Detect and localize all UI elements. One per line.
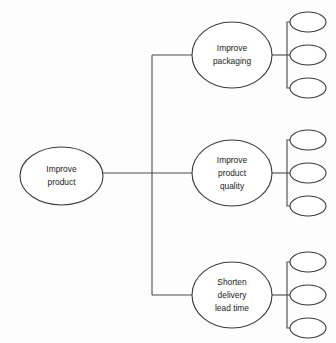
branch-quality-label-line-3: quality [220, 181, 245, 191]
tree-diagram-canvas: Improve product Improve packaging Improv… [0, 0, 336, 343]
branch-packaging-ellipse-shape [192, 22, 272, 88]
branch-quality-label-line-2: product [218, 168, 247, 178]
root-ellipse-shape [20, 147, 103, 205]
node-branch-shorten-delivery-lead-time[interactable]: Shorten delivery lead time [192, 262, 272, 328]
leaf-node-quality-3[interactable] [290, 196, 326, 216]
branch-packaging-label-line-2: packaging [213, 56, 252, 66]
leaf-node-packaging-2[interactable] [290, 45, 326, 65]
branch-delivery-label-line-3: lead time [215, 303, 249, 313]
leaf-node-quality-2[interactable] [290, 163, 326, 183]
leaf-node-quality-1[interactable] [290, 130, 326, 150]
branch-delivery-label-line-1: Shorten [217, 277, 247, 287]
tree-diagram-svg: Improve product Improve packaging Improv… [0, 0, 336, 343]
leaf-node-delivery-1[interactable] [290, 252, 326, 272]
leaf-group-packaging [290, 12, 326, 98]
node-branch-improve-product-quality[interactable]: Improve product quality [192, 140, 272, 206]
leaf-node-delivery-3[interactable] [290, 318, 326, 338]
leaf-group-delivery [290, 252, 326, 338]
branch-packaging-label-line-1: Improve [217, 43, 248, 53]
leaf-node-packaging-1[interactable] [290, 12, 326, 32]
node-root-improve-product[interactable]: Improve product [20, 147, 103, 205]
leaf-group-quality [290, 130, 326, 216]
leaf-node-packaging-3[interactable] [290, 78, 326, 98]
node-branch-improve-packaging[interactable]: Improve packaging [192, 22, 272, 88]
leaf-node-delivery-2[interactable] [290, 285, 326, 305]
root-label-line-1: Improve [46, 164, 77, 174]
branch-delivery-label-line-2: delivery [218, 290, 248, 300]
root-label-line-2: product [48, 177, 77, 187]
branch-quality-label-line-1: Improve [217, 155, 248, 165]
